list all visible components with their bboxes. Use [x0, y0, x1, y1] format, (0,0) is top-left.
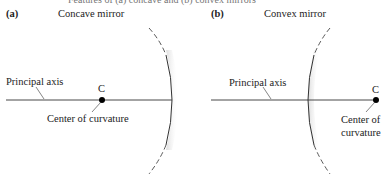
center-leader-b — [366, 102, 375, 112]
center-leader-a — [92, 102, 101, 112]
axis-leader-a — [36, 87, 44, 99]
center-label-a: C — [98, 83, 105, 94]
principal-axis-label-a: Principal axis — [6, 76, 63, 87]
panel-title-b: Convex mirror — [264, 8, 326, 19]
center-caption-b-line1: Center of — [341, 114, 380, 125]
panel-title-a: Concave mirror — [58, 8, 124, 19]
panel-letter-b: (b) — [211, 8, 224, 19]
center-of-curvature-dot-a — [99, 97, 105, 103]
panel-b-convex — [211, 28, 379, 174]
center-label-b: C — [372, 84, 379, 95]
panel-a-concave — [6, 28, 178, 174]
center-of-curvature-dot-b — [373, 97, 379, 103]
mirror-diagram — [0, 0, 385, 182]
concave-mirror-dashed-top — [149, 28, 166, 55]
principal-axis-label-b: Principal axis — [229, 77, 286, 88]
axis-leader-b — [263, 87, 271, 99]
panel-letter-a: (a) — [6, 8, 18, 19]
center-caption-b-line2: curvature — [341, 127, 381, 138]
center-caption-a: Center of curvature — [47, 113, 129, 124]
concave-mirror-dashed-bottom — [149, 145, 166, 174]
